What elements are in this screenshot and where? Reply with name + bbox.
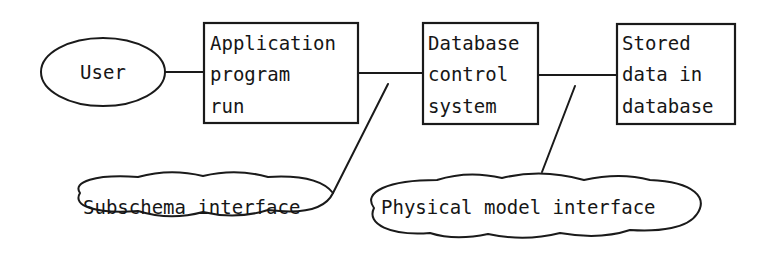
callout-physical-line	[542, 86, 575, 172]
app-label-line-3: run	[210, 95, 244, 117]
stored-label-line-2: data in	[622, 63, 702, 85]
node-physical: Physical model interface	[371, 173, 701, 237]
node-stored: Stored data in database	[617, 24, 735, 124]
diagram-canvas: User Application program run Database co…	[0, 0, 772, 256]
physical-label: Physical model interface	[381, 196, 656, 218]
app-label-line-1: Application	[210, 32, 336, 54]
stored-label-line-3: database	[622, 95, 714, 117]
stored-label-line-1: Stored	[622, 32, 691, 54]
user-label: User	[80, 61, 126, 83]
node-user: User	[41, 38, 165, 106]
dbcs-label-line-3: system	[428, 95, 497, 117]
node-app: Application program run	[204, 23, 358, 123]
subschema-label: Subschema interface	[83, 196, 300, 218]
app-label-line-2: program	[210, 63, 290, 85]
node-dbcs: Database control system	[423, 23, 538, 124]
dbcs-label-line-1: Database	[428, 32, 520, 54]
node-subschema: Subschema interface	[78, 172, 333, 218]
dbcs-label-line-2: control	[428, 63, 508, 85]
